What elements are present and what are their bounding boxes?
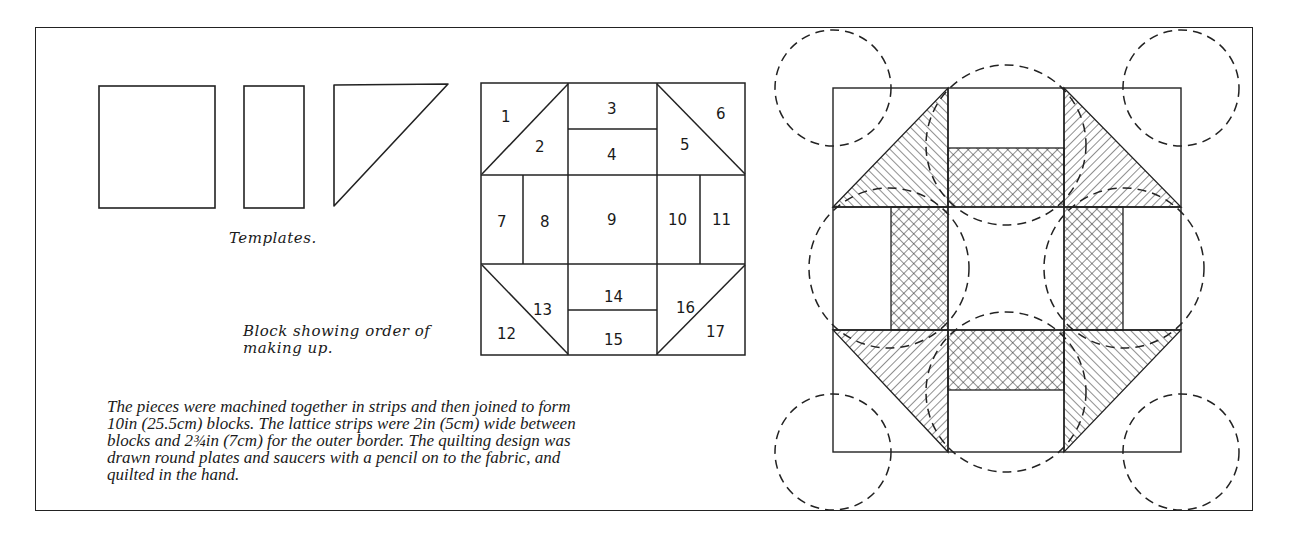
strip-right bbox=[1064, 207, 1123, 330]
piece-17: 17 bbox=[706, 323, 725, 341]
piece-11: 11 bbox=[712, 211, 731, 229]
piece-14: 14 bbox=[604, 288, 623, 306]
quilting-circles bbox=[775, 30, 1239, 510]
piece-12: 12 bbox=[497, 325, 516, 343]
template-square bbox=[99, 86, 215, 208]
piece-6: 6 bbox=[716, 105, 726, 123]
description-line-4: drawn round plates and saucers with a pe… bbox=[107, 449, 787, 466]
piece-10: 10 bbox=[668, 211, 687, 229]
triangle-top-right bbox=[1064, 88, 1181, 207]
piece-5: 5 bbox=[680, 136, 690, 154]
description-line-3: blocks and 2¾in (7cm) for the outer bord… bbox=[107, 432, 787, 449]
piece-3: 3 bbox=[607, 100, 617, 118]
piece-16: 16 bbox=[676, 299, 695, 317]
triangle-top-left bbox=[833, 88, 948, 207]
piece-7: 7 bbox=[497, 213, 507, 231]
templates-caption: Templates. bbox=[229, 229, 317, 247]
piece-9: 9 bbox=[607, 211, 617, 229]
piece-4: 4 bbox=[607, 146, 617, 164]
piece-1: 1 bbox=[501, 108, 511, 126]
description-paragraph: The pieces were machined together in str… bbox=[107, 398, 787, 483]
piece-2: 2 bbox=[535, 138, 545, 156]
block-order-diagram: 1 2 3 4 5 6 7 8 9 10 11 12 13 14 15 16 1… bbox=[480, 82, 750, 362]
description-line-2: 10in (25.5cm) blocks. The lattice strips… bbox=[107, 415, 787, 432]
piece-15: 15 bbox=[604, 331, 623, 349]
quilt-block-illustration bbox=[790, 50, 1230, 490]
block-order-caption: Block showing order of making up. bbox=[243, 323, 430, 357]
description-line-5: quilted in the hand. bbox=[107, 466, 787, 483]
block-caption-line-1: Block showing order of bbox=[243, 323, 430, 340]
strip-top bbox=[948, 148, 1064, 207]
template-triangle bbox=[334, 84, 448, 206]
strip-bottom bbox=[948, 330, 1064, 390]
template-shapes bbox=[80, 70, 480, 220]
piece-8: 8 bbox=[540, 213, 550, 231]
piece-13: 13 bbox=[533, 301, 552, 319]
block-caption-line-2: making up. bbox=[243, 340, 430, 357]
description-line-1: The pieces were machined together in str… bbox=[107, 398, 787, 415]
template-rectangle bbox=[244, 86, 304, 208]
strip-left bbox=[891, 207, 948, 330]
